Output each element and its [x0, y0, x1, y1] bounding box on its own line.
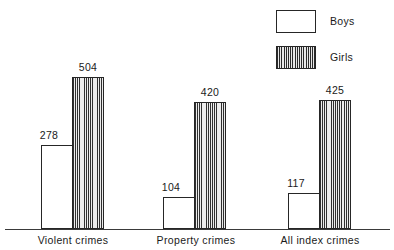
category-label-property-crimes: Property crimes: [144, 234, 248, 246]
bar-chart: Boys Girls 278 504 Violent crimes 104 42…: [0, 0, 394, 250]
bar-group-violent-crimes: 278 504 Violent crimes: [0, 0, 140, 250]
bar-girls-violent-crimes: [72, 77, 104, 229]
bar-value-girls-violent-crimes: 504: [70, 61, 106, 73]
plot-area: 278 504 Violent crimes 104 420 Property …: [0, 0, 394, 250]
bar-value-boys-property-crimes: 104: [153, 181, 189, 193]
bar-boys-all-index-crimes: [288, 193, 320, 229]
bar-group-all-index-crimes: 117 425 All index crimes: [270, 0, 394, 250]
bar-girls-all-index-crimes: [319, 100, 351, 229]
bar-value-girls-property-crimes: 420: [192, 86, 228, 98]
category-label-violent-crimes: Violent crimes: [23, 234, 123, 246]
bar-group-property-crimes: 104 420 Property crimes: [140, 0, 270, 250]
bar-boys-property-crimes: [163, 197, 195, 229]
bar-value-boys-violent-crimes: 278: [31, 129, 67, 141]
bar-girls-property-crimes: [194, 102, 226, 229]
bar-boys-violent-crimes: [41, 145, 73, 229]
bar-value-boys-all-index-crimes: 117: [278, 177, 314, 189]
category-label-all-index-crimes: All index crimes: [266, 234, 374, 246]
bar-value-girls-all-index-crimes: 425: [317, 84, 353, 96]
